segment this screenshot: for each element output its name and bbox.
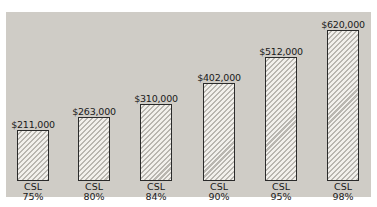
bar-csl-75 <box>17 130 49 181</box>
bar-value-label: $211,000 <box>3 119 63 130</box>
bar-value-label: $402,000 <box>189 72 249 83</box>
bar-value-label: $620,000 <box>313 19 373 30</box>
bar-value-label: $512,000 <box>251 46 311 57</box>
bar-category-label: CSL 90% <box>194 182 244 202</box>
bar-category-label: CSL 95% <box>256 182 306 202</box>
bar-csl-95 <box>265 57 297 181</box>
chart-panel <box>6 12 371 197</box>
bar-category-label: CSL 84% <box>131 182 181 202</box>
bar-csl-80 <box>78 117 110 181</box>
bar-value-label: $263,000 <box>64 106 124 117</box>
bar-value-label: $310,000 <box>126 93 186 104</box>
bar-csl-84 <box>140 104 172 181</box>
bar-category-label: CSL 75% <box>8 182 58 202</box>
bar-category-label: CSL 80% <box>69 182 119 202</box>
bar-csl-98 <box>327 30 359 181</box>
bar-category-label: CSL 98% <box>318 182 368 202</box>
bar-csl-90 <box>203 83 235 181</box>
